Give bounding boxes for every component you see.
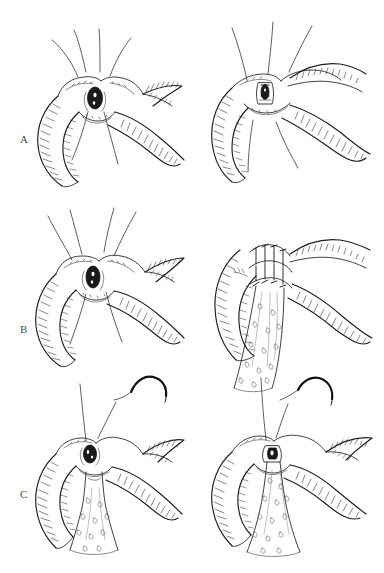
panel-a-right [212,22,370,183]
conduit-c-right [247,462,300,557]
duct-wall-a-right [232,70,341,88]
bowel-limb-upper-right-a-left [143,82,182,106]
duct-orifice-c-right [263,446,282,462]
bowel-limb-lower-right-c-right [284,465,366,519]
panel-b-left [36,208,184,367]
anterior-flap-a-right [244,103,290,115]
bowel-loop-left-a-left [38,96,79,187]
duct-orifice-b-left [82,266,103,290]
suture-threads-c-right [261,378,288,440]
bowel-loop-left-b-left [36,274,76,367]
bowel-limb-lower-right-a-left [108,112,184,166]
duct-orifice-a-right [257,83,274,104]
panel-b-right [215,240,372,392]
inferior-rim-a-left [79,112,115,123]
surgical-illustration [0,0,384,573]
bowel-limb-upper-right-c-left [143,440,184,462]
bowel-loop-left-c-right [212,452,254,546]
illustration-plate: A B C [0,0,384,573]
panel-c-right [212,378,372,557]
suture-needle-c-left [114,377,166,402]
panel-label-a: A [20,133,28,145]
duct-wall-c-right [232,435,326,452]
suture-threads-c-left [80,384,116,441]
anastomosis-suture-line-b-right [234,244,292,288]
bowel-loop-left-c-left [36,454,76,548]
duct-wall-b-left [56,255,145,274]
bowel-limb-lower-right-b-left [107,291,184,344]
panel-label-b: B [20,323,28,335]
panel-c-left [36,377,184,555]
bowel-limb-upper-right-b-right [290,240,370,268]
bowel-loop-left-b-right [215,250,256,361]
bowel-limb-lower-right-c-left [106,467,182,520]
panel-label-c: C [20,488,28,500]
bowel-limb-lower-right-b-right [288,284,372,344]
panel-a-left [38,29,184,187]
conduit-b-right [234,286,284,392]
duct-orifice-a-left [84,87,105,111]
suture-needle-c-right [280,378,332,405]
conduit-c-left [70,472,118,555]
bowel-limb-upper-right-c-right [326,438,372,460]
duct-orifice-c-left [80,445,99,465]
inferior-rim-c-left [76,466,112,477]
bowel-limb-upper-right-a-right [288,64,366,92]
bowel-limb-lower-right-a-right [282,105,370,161]
bowel-loop-left-a-right [212,88,248,183]
stay-sutures-a-right [232,22,312,172]
bowel-limb-upper-right-b-left [145,258,184,282]
